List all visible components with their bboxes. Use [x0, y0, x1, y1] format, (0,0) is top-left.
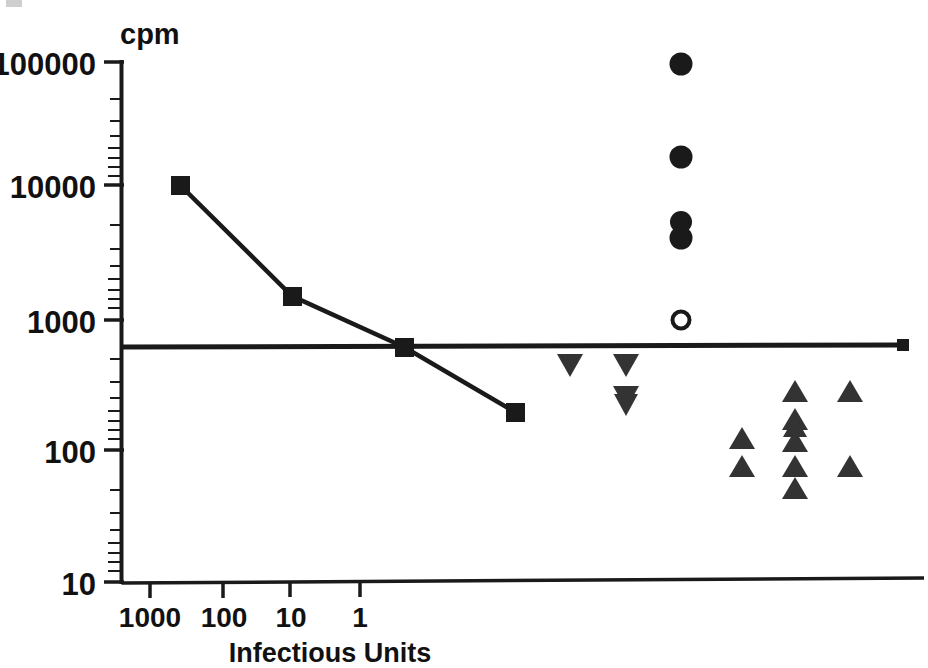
y-axis-title: cpm [120, 18, 180, 50]
y-tick-label-100: 100 [44, 435, 96, 470]
y-tick-label-1000: 1000 [27, 305, 96, 340]
x-axis-ticks [150, 582, 360, 598]
threshold-line [123, 339, 909, 351]
data-point-up-triangle [782, 455, 808, 477]
data-point-open-circle [673, 312, 690, 329]
series-standard-curve [171, 176, 525, 422]
axes-group [122, 60, 925, 584]
data-point-down-triangle [614, 394, 638, 416]
x-tick-label-10: 10 [275, 602, 306, 633]
data-point-up-triangle [782, 477, 808, 499]
data-point-up-triangle [782, 380, 808, 402]
data-point-up-triangle [729, 427, 755, 449]
series-positive-samples [670, 53, 693, 250]
data-point-square [506, 403, 525, 422]
x-axis-title: Infectious Units [229, 638, 432, 668]
y-tick-label-10: 10 [62, 567, 96, 602]
series-borderline-sample [673, 312, 690, 329]
data-point-square [171, 176, 190, 195]
data-point-up-triangle [837, 455, 863, 477]
data-point-down-triangle [613, 354, 639, 377]
y-tick-label-100000: 100000 [0, 47, 96, 82]
data-point-up-triangle [729, 455, 755, 477]
data-point-circle [670, 146, 693, 169]
data-point-down-triangle [557, 354, 583, 377]
y-tick-label-10000: 10000 [10, 170, 96, 205]
data-point-up-triangle [837, 380, 863, 402]
x-tick-label-1: 1 [352, 602, 368, 633]
data-point-square [283, 287, 302, 306]
data-point-circle [670, 227, 693, 250]
data-point-circle [670, 53, 693, 76]
scatter-plot-canvas: 100000 10000 1000 100 10 cpm 1000 100 10… [0, 0, 928, 668]
standard-curve-line [180, 185, 515, 412]
series-negative-samples [729, 380, 863, 499]
data-point-square [395, 338, 414, 357]
chart-figure: 100000 10000 1000 100 10 cpm 1000 100 10… [0, 0, 928, 668]
series-intermediate-samples [557, 354, 639, 416]
x-tick-label-100: 100 [201, 602, 248, 633]
scan-artifact [6, 0, 22, 7]
x-tick-label-1000: 1000 [119, 602, 181, 633]
x-axis-line [122, 578, 925, 583]
